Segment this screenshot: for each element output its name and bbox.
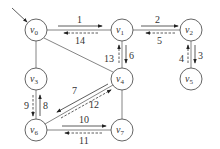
node-v6: v6 [25, 119, 47, 141]
label-3: 3 [198, 50, 203, 61]
node-v0: v0 [25, 19, 47, 41]
node-v3: v3 [25, 68, 47, 90]
label-13: 13 [104, 53, 114, 64]
label-5: 5 [157, 35, 162, 46]
label-9: 9 [24, 100, 29, 111]
label-14: 14 [75, 35, 85, 46]
start-arrow-icon [12, 8, 27, 22]
label-11: 11 [79, 135, 89, 146]
label-12: 12 [89, 99, 99, 110]
node-v4: v4 [111, 68, 133, 90]
label-6: 6 [129, 50, 134, 61]
label-10: 10 [79, 114, 89, 125]
node-v5: v5 [180, 68, 202, 90]
label-2: 2 [155, 14, 160, 25]
label-4: 4 [179, 53, 184, 64]
node-v2: v2 [180, 19, 202, 41]
label-1: 1 [77, 14, 82, 25]
node-v1: v1 [111, 19, 133, 41]
arrow-7 [57, 84, 108, 112]
label-7: 7 [72, 85, 77, 96]
node-v7: v7 [111, 119, 133, 141]
dfs-traversal-diagram: 1 14 2 5 3 4 6 13 8 9 7 12 [0, 0, 220, 149]
label-8: 8 [43, 100, 48, 111]
